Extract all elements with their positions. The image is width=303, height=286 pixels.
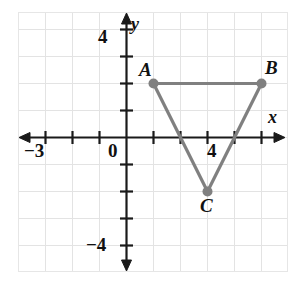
x-tick-label-4: 4 — [207, 141, 217, 160]
point-label-b: B — [265, 58, 278, 77]
point-label-a: A — [139, 60, 152, 79]
y-axis-label: y — [131, 15, 139, 33]
x-tick-label-neg3: −3 — [24, 141, 44, 160]
y-axis-arrow-up — [122, 13, 132, 24]
y-axis-arrow-down — [122, 260, 132, 271]
y-tick-label-neg4: −4 — [86, 235, 106, 254]
origin-label: 0 — [108, 141, 118, 160]
axes — [19, 13, 285, 271]
vertex-point-a — [149, 79, 159, 89]
coordinate-plane-figure: 4 −4 −3 0 4 x y A B C — [0, 0, 303, 286]
point-label-c: C — [200, 196, 213, 215]
x-axis-arrow-right — [274, 133, 285, 143]
graph-svg — [19, 13, 287, 271]
vertex-point-b — [257, 79, 267, 89]
x-axis-label: x — [268, 108, 277, 126]
plot-area — [18, 12, 288, 272]
y-tick-label-4: 4 — [98, 27, 108, 46]
